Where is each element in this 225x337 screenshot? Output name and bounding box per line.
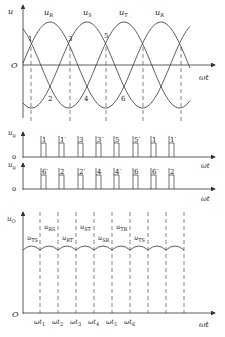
pulse-label: 1′ bbox=[170, 136, 176, 144]
seg-label-ts1: uTS bbox=[27, 234, 39, 243]
pulse-plot-1: ug o ωt bbox=[8, 129, 215, 170]
tick-wt2: ωt2 bbox=[52, 318, 63, 327]
seg-label-rs: uRS bbox=[44, 223, 56, 232]
pulse1-x-label: ωt bbox=[201, 162, 210, 170]
tick-wt1: ωt1 bbox=[34, 318, 45, 327]
seg-label-ts2: uTS bbox=[134, 234, 146, 243]
pulse-label: 3′ bbox=[97, 136, 103, 144]
phase-label-r2: uR bbox=[155, 8, 164, 18]
pulse2-y-label: ug bbox=[8, 161, 17, 171]
pulse2-zero-label: o bbox=[12, 185, 16, 193]
rectifier-waveform-diagram: u O ωt uR uS uT uR 1 3 5 2 4 6 ug o ωt bbox=[0, 0, 225, 337]
pulse-label: 2′ bbox=[79, 168, 85, 176]
tick-wt6: ωt6 bbox=[124, 318, 135, 327]
pulse2-x-label: ωt bbox=[201, 195, 210, 203]
seg-label-st: uST bbox=[80, 223, 92, 232]
top-plot: u O ωt uR uS uT uR 1 3 5 2 4 6 bbox=[8, 5, 215, 122]
top-y-axis-label: u bbox=[8, 7, 13, 16]
phase-label-r1: uR bbox=[44, 8, 53, 18]
seg-label-rt: uRT bbox=[62, 234, 74, 243]
top-x-axis-label: ωt bbox=[199, 73, 210, 82]
pulse-label: 5 bbox=[115, 136, 119, 144]
crossing-4: 4 bbox=[84, 95, 89, 103]
pulse-label: 3 bbox=[79, 136, 83, 144]
output-y-label: uO bbox=[7, 215, 16, 224]
pulse-label: 1′ bbox=[60, 136, 66, 144]
pulse-label: 4 bbox=[97, 168, 102, 176]
crossing-3: 3 bbox=[68, 35, 72, 43]
pulse-label: 6′ bbox=[42, 168, 48, 176]
top-dashed-lines bbox=[31, 47, 181, 122]
output-plot: uO O ωt uTS uRS uRT uST uSR uTR uTS ωt1 … bbox=[7, 212, 215, 329]
phase-label-s: uS bbox=[83, 8, 92, 18]
pulse-label: 5′ bbox=[134, 136, 140, 144]
pulse1-y-label: ug bbox=[8, 129, 17, 139]
crossing-2: 2 bbox=[48, 95, 52, 103]
seg-label-tr: uTR bbox=[116, 223, 128, 232]
pulse-label: 6 bbox=[134, 168, 139, 176]
seg-label-sr: uSR bbox=[98, 234, 110, 243]
tick-wt5: ωt5 bbox=[106, 318, 117, 327]
pulse-label: 6′ bbox=[152, 168, 158, 176]
pulse1-zero-label: o bbox=[12, 153, 16, 161]
pulse-label: 1 bbox=[42, 136, 46, 144]
pulse-label: 4′ bbox=[115, 168, 121, 176]
crossing-1: 1 bbox=[28, 35, 32, 43]
phase-label-t: uT bbox=[119, 8, 128, 18]
tick-wt4: ωt4 bbox=[88, 318, 99, 327]
tick-wt3: ωt3 bbox=[70, 318, 81, 327]
pulse-label: 2 bbox=[170, 168, 174, 176]
crossing-5: 5 bbox=[104, 32, 108, 40]
pulse-plot-2: ug o ωt bbox=[8, 161, 215, 203]
output-origin-label: O bbox=[12, 310, 19, 319]
crossing-6: 6 bbox=[121, 95, 126, 103]
pulse-label: 2 bbox=[60, 168, 64, 176]
output-x-label: ωt bbox=[199, 320, 210, 329]
top-origin-label: O bbox=[11, 61, 18, 70]
pulse-label: 1 bbox=[152, 136, 156, 144]
